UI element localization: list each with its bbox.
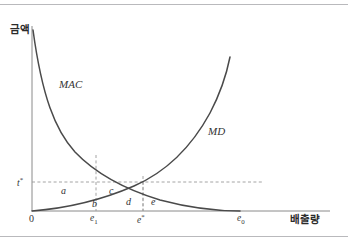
e0-tick-label: e0 xyxy=(237,214,245,226)
area-label-a: a xyxy=(61,186,66,196)
area-label-c: c xyxy=(109,186,113,196)
e-star-mark: * xyxy=(141,213,144,220)
emissions-tax-diagram: 금액 배출량 MAC MD 0 t* e1 e* e0 a b c d e xyxy=(0,0,348,243)
t-star-mark: * xyxy=(20,176,23,183)
mac-curve xyxy=(33,30,240,211)
e0-mark: 0 xyxy=(241,218,244,225)
t-star-tick-label: t* xyxy=(17,177,23,189)
plot-canvas xyxy=(0,0,348,243)
mac-curve-label: MAC xyxy=(59,79,82,90)
area-label-d: d xyxy=(126,197,131,207)
e-star-tick-label: e* xyxy=(137,214,145,226)
area-label-e: e xyxy=(151,197,155,207)
e1-mark: 1 xyxy=(94,218,97,225)
area-label-b: b xyxy=(92,199,97,209)
y-axis-label: 금액 xyxy=(10,24,30,35)
origin-tick-label: 0 xyxy=(29,214,34,224)
x-axis-label: 배출량 xyxy=(290,214,320,225)
md-curve-label: MD xyxy=(208,126,225,137)
e1-tick-label: e1 xyxy=(90,214,98,226)
